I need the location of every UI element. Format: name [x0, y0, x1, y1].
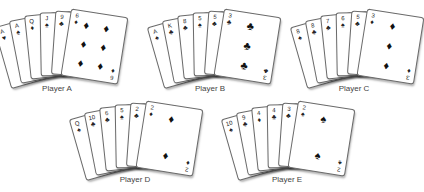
suit-icon: ♦ — [255, 116, 264, 124]
card-front: 3♣ ♣ ♣ ♣ 3♣ — [213, 8, 281, 84]
diamond-icon: ♦ — [386, 40, 393, 52]
suit-icon: ♣ — [240, 120, 249, 128]
suit-icon: ♠ — [339, 21, 347, 28]
suit-icon: ♣ — [103, 116, 112, 124]
card-front: 6♦ ♦ ♦ ♦ ♦ ♦ ♦ 6♦ — [60, 8, 128, 84]
card-front: 2♦ ♦ ♦ 2♦ — [135, 100, 203, 176]
suit-icon: ♦ — [147, 110, 156, 118]
player-e-label: Player E — [247, 175, 327, 184]
suit-icon: ♣ — [270, 113, 278, 120]
suit-icon: ♠ — [226, 125, 236, 134]
suit-icon: ♠ — [295, 33, 305, 42]
suit-icon: ♠ — [299, 110, 308, 118]
suit-icon: ♦ — [28, 24, 37, 32]
suit-icon: ♣ — [324, 24, 333, 32]
club-icon: ♣ — [240, 60, 249, 72]
suit-icon: ♥ — [0, 33, 9, 42]
suit-icon: ♣ — [309, 28, 318, 36]
suit-icon: ♣ — [88, 120, 97, 128]
hand-player-a: A♥ A♠ Q♦ J♠ 9♣ 6♦ ♦ ♦ ♦ ♦ ♦ ♦ 6♦ — [2, 4, 122, 94]
hand-player-b: A♠ K♣ 8♣ 5♠ 5♣ 3♣ ♣ ♣ ♣ 3♣ — [155, 4, 275, 94]
suit-icon: ♣ — [225, 18, 234, 26]
player-b-label: Player B — [170, 84, 250, 93]
club-icon: ♣ — [246, 20, 255, 32]
diamond-icon: ♦ — [83, 20, 90, 32]
suit-icon: ♦ — [72, 18, 81, 26]
diamond-icon: ♦ — [389, 20, 396, 32]
player-a-label: Player A — [17, 84, 97, 93]
diamond-icon: ♦ — [97, 60, 104, 72]
suit-icon: ♣ — [181, 24, 190, 32]
club-icon: ♣ — [243, 40, 252, 52]
diamond-icon: ♦ — [77, 57, 84, 69]
diamond-icon: ♦ — [80, 38, 87, 50]
diamond-icon: ♦ — [168, 113, 175, 125]
player-d-label: Player D — [95, 175, 175, 184]
hand-player-e: 10♠ 9♣ 4♦ 4♣ 3♣ 2♠ ♠ ♠ 2♠ — [229, 96, 349, 186]
diamond-icon: ♦ — [103, 23, 110, 35]
suit-icon: ♣ — [166, 28, 175, 36]
suit-icon: ♣ — [132, 112, 140, 120]
suit-icon: ♠ — [74, 125, 84, 134]
diamond-icon: ♦ — [383, 60, 390, 72]
suit-icon: ♠ — [13, 28, 22, 36]
hand-player-c: 8♠ 8♣ 7♣ 6♠ 5♣ 3♦ ♦ ♦ ♦ 3♦ — [298, 4, 418, 94]
diamond-icon: ♦ — [162, 150, 169, 162]
suit-icon: ♠ — [196, 21, 204, 28]
suit-icon: ♠ — [152, 33, 162, 42]
spade-icon: ♠ — [320, 113, 327, 125]
suit-icon: ♣ — [353, 20, 361, 28]
suit-icon: ♣ — [284, 112, 292, 120]
player-c-label: Player C — [314, 84, 394, 93]
suit-icon: ♣ — [210, 20, 218, 28]
diamond-icon: ♦ — [100, 42, 107, 54]
card-front: 2♠ ♠ ♠ 2♠ — [287, 100, 355, 176]
suit-icon: ♠ — [118, 113, 126, 120]
hand-player-d: Q♠ 10♣ 6♣ 5♠ 2♣ 2♦ ♦ ♦ 2♦ — [77, 96, 197, 186]
card-front: 3♦ ♦ ♦ ♦ 3♦ — [356, 8, 424, 84]
spade-icon: ♠ — [314, 150, 321, 162]
suit-icon: ♣ — [57, 20, 65, 28]
suit-icon: ♠ — [43, 21, 51, 28]
suit-icon: ♦ — [368, 18, 377, 26]
